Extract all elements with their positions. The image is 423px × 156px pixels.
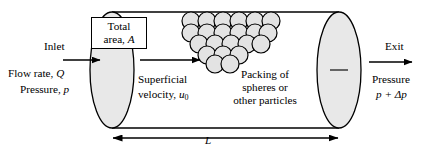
exit-pressure-label: Pressure bbox=[372, 73, 410, 86]
total-area-line2: area, A bbox=[92, 33, 146, 46]
packing-line2: spheres or bbox=[212, 81, 318, 94]
velocity-symbol: u bbox=[179, 88, 185, 100]
packing-label: Packing of spheres or other particles bbox=[212, 68, 318, 108]
length-label: L bbox=[205, 134, 211, 147]
packing-line1: Packing of bbox=[212, 68, 318, 81]
total-area-line2-text: area, bbox=[103, 33, 124, 45]
inlet-pressure-symbol: p bbox=[64, 83, 70, 95]
superficial-label: Superficial bbox=[138, 73, 187, 86]
inlet-pressure-label: Pressure, p bbox=[20, 83, 69, 96]
total-area-line1: Total bbox=[92, 20, 146, 33]
packing-line3: other particles bbox=[212, 94, 318, 107]
flow-rate-symbol: Q bbox=[56, 67, 64, 79]
total-area-callout-box: Total area, A bbox=[91, 17, 147, 49]
packed-bed-diagram: Inlet Flow rate, Q Pressure, p Total are… bbox=[0, 0, 423, 156]
total-area-symbol: A bbox=[128, 33, 135, 45]
inlet-pressure-text: Pressure, bbox=[20, 83, 61, 95]
exit-pressure-symbol: p + Δp bbox=[376, 88, 407, 101]
sphere-packing bbox=[182, 12, 280, 73]
flow-rate-text: Flow rate, bbox=[8, 67, 53, 79]
flow-rate-label: Flow rate, Q bbox=[8, 67, 64, 80]
exit-label: Exit bbox=[385, 40, 404, 53]
velocity-text: velocity, bbox=[138, 88, 176, 100]
total-area-text: Total area, A bbox=[92, 20, 146, 47]
right-end-ellipse bbox=[317, 12, 361, 128]
inlet-label: Inlet bbox=[44, 40, 65, 53]
velocity-subscript: 0 bbox=[185, 93, 189, 102]
velocity-label: velocity, u0 bbox=[138, 88, 189, 101]
